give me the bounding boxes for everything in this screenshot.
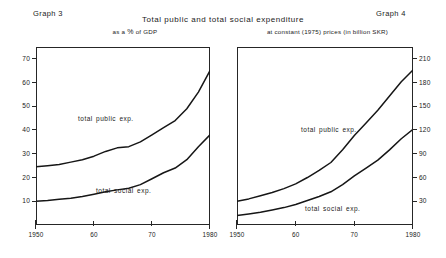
subtitle-left-prefix: as a <box>113 28 126 35</box>
curve-label-public-right: total public exp. <box>301 126 357 133</box>
curve-label-social-right: total social exp. <box>305 205 360 212</box>
y-tick-mark <box>32 58 37 59</box>
y-tick-mark <box>412 153 417 154</box>
plot-area-right <box>237 47 413 225</box>
y-tick-mark <box>412 201 417 202</box>
x-tick-label: 1980 <box>403 231 423 238</box>
y-tick-mark <box>32 201 37 202</box>
y-tick-label: 120 <box>419 126 431 133</box>
y-tick-mark <box>412 177 417 178</box>
series-line-public <box>237 70 413 201</box>
x-tick-mark <box>354 221 355 226</box>
x-tick-mark <box>209 220 210 229</box>
subtitle-left-suffix: of GDP <box>136 28 158 35</box>
y-tick-label: 210 <box>419 55 431 62</box>
y-tick-label: 50 <box>12 102 30 109</box>
y-tick-label: 180 <box>419 79 431 86</box>
y-tick-mark <box>32 129 37 130</box>
y-tick-label: 60 <box>419 174 427 181</box>
y-tick-mark <box>32 153 37 154</box>
x-tick-label: 1950 <box>26 231 46 238</box>
x-tick-label: 1980 <box>200 231 220 238</box>
y-tick-label: 40 <box>12 126 30 133</box>
curve-label-public-left: total public exp. <box>78 115 134 122</box>
y-tick-label: 20 <box>12 174 30 181</box>
y-tick-mark <box>32 82 37 83</box>
subtitle-right: at constant (1975) prices (in billion SK… <box>240 28 415 35</box>
y-tick-label: 90 <box>419 150 427 157</box>
y-tick-label: 30 <box>419 197 427 204</box>
x-tick-mark <box>35 220 36 229</box>
curve-label-social-left: total social exp. <box>96 187 151 194</box>
x-tick-mark <box>93 221 94 226</box>
subtitle-left: as a % of GDP <box>60 28 210 35</box>
x-tick-label: 60 <box>286 231 306 238</box>
x-tick-mark <box>236 220 237 229</box>
y-tick-mark <box>412 129 417 130</box>
y-tick-label: 150 <box>419 102 431 109</box>
x-tick-label: 70 <box>142 231 162 238</box>
y-tick-mark <box>412 106 417 107</box>
percent-symbol: % <box>127 28 133 35</box>
series-line-social <box>237 129 413 215</box>
figure-container: Graph 3 Graph 4 Total public and total s… <box>0 0 446 258</box>
x-tick-mark <box>295 221 296 226</box>
y-tick-label: 70 <box>12 55 30 62</box>
chart-panel-right <box>237 47 413 225</box>
x-tick-mark <box>151 221 152 226</box>
y-tick-label: 10 <box>12 197 30 204</box>
y-tick-mark <box>32 177 37 178</box>
x-tick-label: 60 <box>84 231 104 238</box>
y-tick-mark <box>412 82 417 83</box>
x-tick-label: 70 <box>344 231 364 238</box>
y-tick-mark <box>412 58 417 59</box>
figure-main-title: Total public and total social expenditur… <box>0 15 446 24</box>
y-tick-label: 60 <box>12 79 30 86</box>
y-tick-mark <box>32 106 37 107</box>
x-tick-mark <box>412 220 413 229</box>
y-tick-label: 30 <box>12 150 30 157</box>
chart-panel-left <box>36 47 210 225</box>
plot-area-left <box>36 47 210 225</box>
x-tick-label: 1950 <box>227 231 247 238</box>
